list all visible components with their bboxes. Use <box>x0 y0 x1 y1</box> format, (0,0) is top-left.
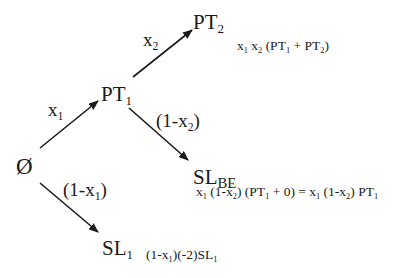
payoff-text: ) (PT <box>237 184 265 199</box>
edge-label-x2-sub: 2 <box>153 40 159 53</box>
node-sl1-base: SL <box>102 236 127 260</box>
payoff-text: + 0) = x <box>269 184 316 199</box>
payoff-sl1: (1-x1)(-2)SL1 <box>146 248 217 262</box>
payoff-text: + PT <box>290 38 320 53</box>
payoff-sub: 1 <box>374 192 378 201</box>
root-node-empty-set: Ø <box>16 155 33 178</box>
edge-label-one-minus-x1: (1-x1) <box>63 180 107 199</box>
node-pt1-sub: 1 <box>126 93 133 108</box>
edge-label-x1: x1 <box>48 100 63 119</box>
payoff-text: (1-x <box>320 184 346 199</box>
edge-label-pre: (1-x <box>63 179 95 200</box>
node-sl1-sub: 1 <box>127 247 134 262</box>
edge-label-x1-base: x <box>48 99 58 120</box>
node-sl1: SL1 <box>102 238 133 259</box>
edge-label-one-minus-x2: (1-x2) <box>156 111 200 130</box>
payoff-text: (PT <box>262 38 286 53</box>
tree-edges <box>0 0 419 278</box>
payoff-text: ) <box>324 38 329 53</box>
payoff-sl-be: x1 (1-x2) (PT1 + 0) = x1 (1-x2) PT1 <box>196 185 378 199</box>
payoff-text: x <box>248 38 258 53</box>
decision-tree-diagram: Ø PT1 PT2 SLBE SL1 x1 x2 (1-x2) (1-x1) x… <box>0 0 419 278</box>
payoff-text: x <box>237 38 244 53</box>
edge-label-x1-sub: 1 <box>58 110 64 123</box>
payoff-sub: 1 <box>213 255 217 264</box>
payoff-text: )(-2)SL <box>173 247 214 262</box>
edge-label-pre: (1-x <box>156 110 188 131</box>
payoff-text: (1-x <box>207 184 233 199</box>
payoff-text: ) PT <box>350 184 374 199</box>
payoff-text: (1-x <box>146 247 169 262</box>
edge-pt1-to-pt2 <box>133 30 192 77</box>
edge-label-x2-base: x <box>143 29 153 50</box>
edge-label-x2: x2 <box>143 30 158 49</box>
payoff-text: x <box>196 184 203 199</box>
root-node-label: Ø <box>16 154 33 179</box>
node-pt1: PT1 <box>101 84 132 105</box>
node-pt2-base: PT <box>193 10 218 34</box>
payoff-pt2: x1 x2 (PT1 + PT2) <box>237 39 329 53</box>
node-pt1-base: PT <box>101 82 126 106</box>
node-pt2: PT2 <box>193 12 224 33</box>
edge-label-post: ) <box>101 179 107 200</box>
edge-label-post: ) <box>194 110 200 131</box>
node-pt2-sub: 2 <box>218 21 225 36</box>
